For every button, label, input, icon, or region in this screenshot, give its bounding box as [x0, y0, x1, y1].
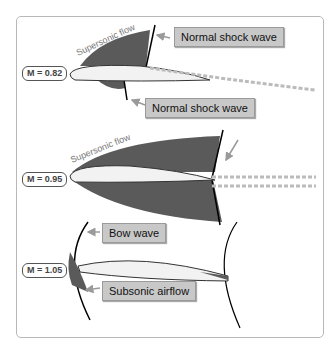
callout-normal-shock-lower: Normal shock wave: [145, 98, 255, 118]
mach-label-1: M = 0.82: [22, 66, 67, 81]
callout-normal-shock-upper: Normal shock wave: [174, 27, 284, 47]
mach-label-3: M = 1.05: [22, 263, 67, 278]
callout-bow-wave: Bow wave: [102, 223, 166, 243]
mach-label-2: M = 0.95: [22, 172, 67, 187]
callout-subsonic-airflow: Subsonic airflow: [102, 281, 196, 301]
supersonic-region-lower: [72, 180, 222, 222]
normal-shock-lower: [124, 80, 127, 100]
